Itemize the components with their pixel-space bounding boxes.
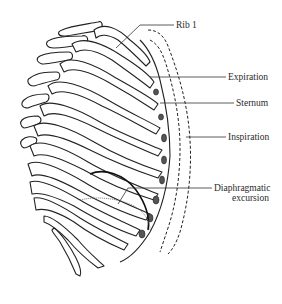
label-sternum: Sternum [236,98,268,108]
label-expiration: Expiration [228,72,268,82]
label-excursion: excursion [232,193,269,203]
label-inspiration: Inspiration [228,132,269,142]
inspiration-outline-inner [150,40,180,252]
label-rib1: Rib 1 [176,20,197,30]
label-diaphragmatic: Diaphragmatic [214,183,270,193]
rib-cage-diagram [0,0,282,304]
